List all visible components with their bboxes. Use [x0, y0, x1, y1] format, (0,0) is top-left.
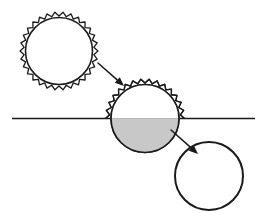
- transition-arrow-one-to-two: [98, 63, 124, 86]
- particle-1-spiky-unwetted: [20, 12, 98, 90]
- particle-1-serrated-ring: [20, 12, 98, 90]
- particle-2-overlay: [106, 79, 185, 158]
- diagram-canvas: [0, 0, 261, 213]
- arrow-1-shaft: [98, 63, 118, 81]
- particle-1-inner-circle: [26, 18, 93, 85]
- transition-arrow-two-to-three: [171, 130, 198, 154]
- particle-3-circle: [175, 142, 243, 210]
- particle-wetting-diagram: [0, 0, 261, 213]
- particle-3-smooth-wetted: [175, 142, 243, 210]
- arrow-2-shaft: [171, 130, 192, 149]
